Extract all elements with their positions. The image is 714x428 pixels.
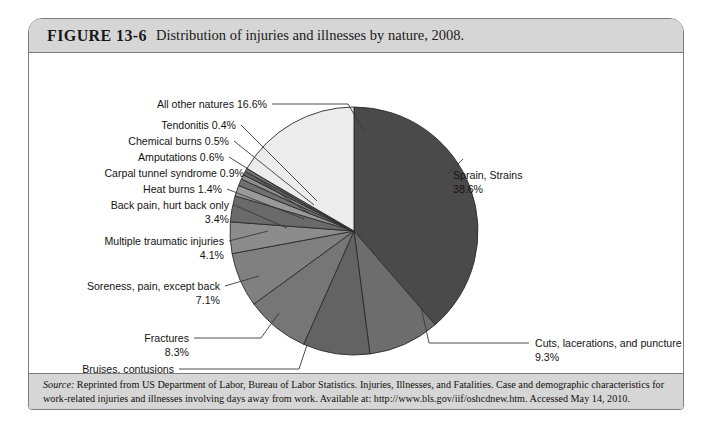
pie-label-tendonitis: Tendonitis 0.4% bbox=[161, 119, 236, 131]
pie-label-back-pain-value: 3.4% bbox=[205, 213, 230, 225]
source-label: Source: bbox=[43, 379, 74, 390]
pie-label-chemical-burns: Chemical burns 0.5% bbox=[128, 135, 229, 147]
pie-label-bruises: Bruises, contusions bbox=[82, 363, 174, 373]
pie-chart-svg: All other natures 16.6% Tendonitis 0.4% … bbox=[29, 53, 682, 373]
source-note: Source: Reprinted from US Department of … bbox=[43, 378, 671, 405]
pie-label-multiple-traumatic-value: 4.1% bbox=[200, 249, 225, 261]
pie-label-all-other-natures: All other natures 16.6% bbox=[157, 98, 268, 110]
leader-line-bruises bbox=[179, 345, 307, 369]
pie-label-cuts-value: 9.3% bbox=[535, 351, 560, 363]
pie-label-back-pain: Back pain, hurt back only bbox=[111, 199, 230, 211]
pie-label-sprains: Sprain, Strains bbox=[453, 169, 522, 181]
pie-label-amputations: Amputations 0.6% bbox=[138, 151, 225, 163]
pie-label-heat-burns: Heat burns 1.4% bbox=[143, 183, 222, 195]
pie-label-fractures-value: 8.3% bbox=[165, 346, 190, 358]
pie-chart-plot-area: All other natures 16.6% Tendonitis 0.4% … bbox=[29, 53, 682, 373]
pie-label-soreness-value: 7.1% bbox=[196, 294, 221, 306]
source-body: Reprinted from US Department of Labor, B… bbox=[43, 379, 664, 404]
figure-caption: Distribution of injuries and illnesses b… bbox=[156, 27, 464, 44]
pie-label-sprains-value: 38.6% bbox=[453, 183, 484, 195]
pie-label-fractures: Fractures bbox=[144, 332, 189, 344]
figure-header: FIGURE 13-6 Distribution of injuries and… bbox=[29, 19, 683, 53]
figure-frame: FIGURE 13-6 Distribution of injuries and… bbox=[28, 18, 684, 410]
pie-label-carpal-tunnel: Carpal tunnel syndrome 0.9% bbox=[104, 167, 244, 179]
figure-number: FIGURE 13-6 bbox=[47, 27, 147, 45]
pie-label-cuts: Cuts, lacerations, and punctures bbox=[535, 337, 682, 349]
pie-label-multiple-traumatic: Multiple traumatic injuries bbox=[104, 235, 224, 247]
source-bar: Source: Reprinted from US Department of … bbox=[29, 373, 683, 409]
pie-label-soreness: Soreness, pain, except back bbox=[87, 280, 221, 292]
